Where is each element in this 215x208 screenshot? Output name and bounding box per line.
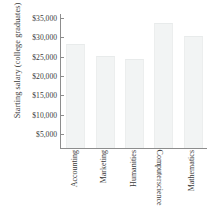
bar-humanities — [125, 59, 144, 148]
y-tick-label: $20,000 — [32, 71, 57, 80]
x-axis-labels: AccountingMarketingHumanitiesComputersci… — [60, 150, 210, 208]
bar-chart: Starting salary (college graduates) $5,0… — [0, 0, 215, 208]
x-label-accounting: Accounting — [71, 150, 80, 187]
y-tick-label: $5,000 — [36, 130, 57, 139]
y-tick-label: $35,000 — [32, 13, 57, 22]
y-tick-label: $10,000 — [32, 110, 57, 119]
bar-mathematics — [184, 36, 203, 148]
y-axis-title: Starting salary (college graduates) — [13, 0, 22, 136]
bar-series — [60, 14, 207, 148]
x-label-mathematics: Mathematics — [188, 150, 197, 191]
bar-computer-science — [154, 23, 173, 148]
x-label-humanities: Humanities — [130, 150, 139, 187]
y-tick-label: $25,000 — [32, 52, 57, 61]
y-tick-label: $15,000 — [32, 91, 57, 100]
x-label-computer-science: Computerscience — [154, 150, 163, 206]
bar-marketing — [96, 56, 115, 148]
x-label-line2: science — [154, 182, 163, 206]
x-label-marketing: Marketing — [100, 150, 109, 183]
x-label-line1: Computer — [154, 150, 163, 182]
bar-accounting — [66, 44, 85, 148]
y-tick-label: $30,000 — [32, 33, 57, 42]
